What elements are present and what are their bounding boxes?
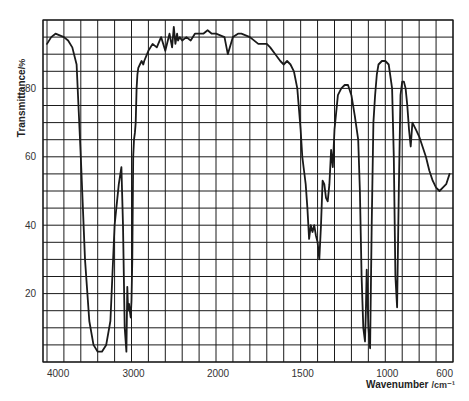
x-tick-label: 1000 xyxy=(376,368,399,379)
ir-spectrum-chart: 20406080 40003000200015001000600 Transmi… xyxy=(0,0,469,401)
y-tick-label: 60 xyxy=(25,151,37,162)
y-tick-label: 20 xyxy=(25,288,37,299)
x-axis: 40003000200015001000600 xyxy=(47,362,453,379)
x-axis-title: Wavenumber/cm⁻¹ xyxy=(366,379,455,390)
spectrum-trace xyxy=(47,27,450,352)
x-tick-label: 1500 xyxy=(292,368,315,379)
x-tick-label: 3000 xyxy=(122,368,145,379)
x-tick-label: 4000 xyxy=(47,368,70,379)
x-tick-label: 600 xyxy=(436,368,453,379)
chart-grid xyxy=(43,20,453,362)
x-tick-label: 2000 xyxy=(207,368,230,379)
y-axis-title: Transmittance/% xyxy=(16,59,27,137)
y-axis: 20406080 xyxy=(25,83,43,299)
y-tick-label: 40 xyxy=(25,220,37,231)
